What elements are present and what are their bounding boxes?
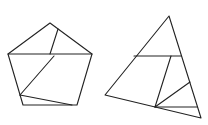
triangle-dissection [105,16,201,118]
pentagon-cut-4 [20,95,72,105]
triangle-outline [105,16,201,118]
triangle-cut-2 [155,56,171,107]
pentagon-cut-3 [20,56,54,95]
pentagon-outline [8,23,92,105]
pentagon-dissection [8,23,92,105]
dissection-figure [0,0,208,125]
triangle-cut-3 [155,82,190,107]
pentagon-cut-2 [50,29,58,54]
